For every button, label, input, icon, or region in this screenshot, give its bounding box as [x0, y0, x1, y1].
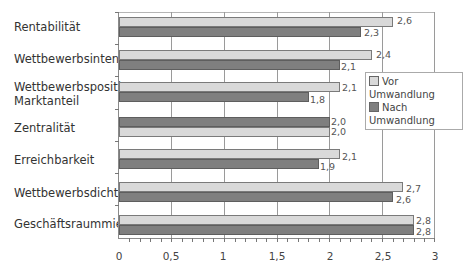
x-minor-tick [192, 238, 193, 242]
y-tick [115, 76, 119, 77]
bar-vor-geschaeftsraummiete [119, 215, 414, 225]
category-label: Zentralität [14, 121, 75, 135]
x-tick-label: 3 [432, 250, 439, 262]
x-minor-tick [129, 238, 130, 242]
bar-nach-wettbewerbsintensitaet [119, 60, 340, 70]
value-label: 2,7 [406, 183, 421, 194]
category-label: Geschäftsraummiete [14, 217, 134, 231]
x-minor-tick [277, 238, 278, 242]
bar-nach-wettbewerbsdichte [119, 192, 393, 202]
legend-item-vor: Vor Umwandlung [369, 75, 459, 101]
legend-item-nach: Nach Umwandlung [369, 101, 459, 127]
bar-vor-wettbewerbsposition [119, 82, 340, 92]
x-tick-label: 0,5 [163, 250, 180, 262]
bar-vor-wettbewerbsdichte [119, 182, 403, 192]
y-tick [115, 173, 119, 174]
x-minor-tick [382, 238, 383, 242]
y-tick [115, 44, 119, 45]
y-tick [115, 141, 119, 142]
bar-nach-rentabilitaet [119, 27, 361, 37]
x-minor-tick [340, 238, 341, 242]
x-tick-label: 0 [116, 250, 123, 262]
x-minor-tick [140, 238, 141, 242]
y-tick [115, 109, 119, 110]
x-tick-label: 2,5 [375, 250, 392, 262]
x-minor-tick [298, 238, 299, 242]
x-minor-tick [213, 238, 214, 242]
bar-vor-zentralitaet [119, 127, 330, 137]
bar-nach-wettbewerbsposition [119, 92, 309, 102]
x-minor-tick [308, 238, 309, 242]
x-minor-tick [434, 238, 435, 242]
bar-vor-wettbewerbsintensitaet [119, 50, 372, 60]
legend: Vor Umwandlung Nach Umwandlung [365, 72, 463, 130]
value-label: 2,0 [331, 126, 346, 137]
category-label: Wettbewerbsdichte [14, 186, 125, 200]
y-tick [115, 12, 119, 13]
value-label: 2,6 [397, 15, 412, 26]
x-minor-tick [403, 238, 404, 242]
x-minor-tick [414, 238, 415, 242]
bar-nach-geschaeftsraummiete [119, 225, 414, 235]
x-minor-tick [371, 238, 372, 242]
x-minor-tick [256, 238, 257, 242]
x-minor-tick [424, 238, 425, 242]
x-minor-tick [224, 238, 225, 242]
x-minor-tick [329, 238, 330, 242]
x-minor-tick [161, 238, 162, 242]
x-minor-tick [319, 238, 320, 242]
bar-nach-zentralitaet [119, 117, 330, 127]
category-label: Erreichbarkeit [14, 153, 94, 167]
x-tick-label: 1,5 [269, 250, 286, 262]
x-minor-tick [393, 238, 394, 242]
value-label: 2,1 [341, 61, 356, 72]
x-minor-tick [350, 238, 351, 242]
category-label-line2: Marktanteil [14, 94, 79, 108]
category-label: Rentabilität [14, 20, 80, 34]
x-minor-tick [150, 238, 151, 242]
bar-nach-erreichbarkeit [119, 159, 319, 169]
x-tick-label: 1 [220, 250, 227, 262]
value-label: 2,4 [376, 49, 391, 60]
value-label: 2,8 [416, 215, 431, 226]
x-minor-tick [235, 238, 236, 242]
bar-vor-rentabilitaet [119, 17, 393, 27]
y-tick [115, 205, 119, 206]
legend-swatch-dark [369, 102, 379, 112]
x-tick-label: 2 [327, 250, 334, 262]
x-minor-tick [182, 238, 183, 242]
x-minor-tick [171, 238, 172, 242]
x-minor-tick [266, 238, 267, 242]
x-minor-tick [245, 238, 246, 242]
legend-swatch-light [369, 76, 379, 86]
x-minor-tick [361, 238, 362, 242]
value-label: 1,8 [310, 94, 325, 105]
x-minor-tick [203, 238, 204, 242]
value-label: 2,1 [342, 82, 357, 93]
x-minor-tick [287, 238, 288, 242]
value-label: 2,1 [342, 151, 357, 162]
value-label: 2,8 [416, 226, 431, 237]
value-label: 2,3 [364, 27, 379, 38]
value-label: 1,9 [320, 161, 335, 172]
value-label: 2,6 [396, 194, 411, 205]
bar-vor-erreichbarkeit [119, 149, 340, 159]
